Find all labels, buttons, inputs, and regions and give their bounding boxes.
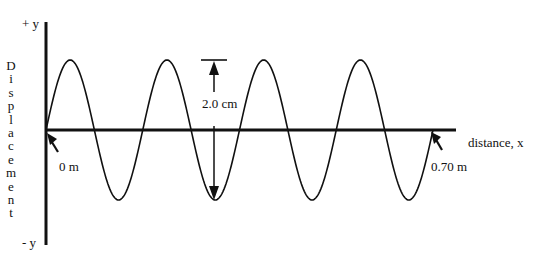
y-axis-title-letter: D	[5, 59, 17, 72]
y-axis-positive-label: + y	[22, 17, 39, 30]
arrowhead-up-icon	[209, 61, 219, 75]
y-axis-title-letter: s	[5, 86, 17, 99]
transverse-wave-diagram	[0, 0, 541, 261]
y-axis-title-letter: n	[5, 193, 17, 206]
y-axis-title-letter: t	[5, 206, 17, 219]
y-axis-title-letter: i	[5, 72, 17, 85]
y-axis-title-letter: a	[5, 126, 17, 139]
y-axis-title-displacement: Displacement	[5, 59, 17, 220]
start-pointer-arrowhead-icon	[47, 133, 57, 145]
end-distance-label: 0.70 m	[431, 160, 467, 173]
y-axis-title-letter: l	[5, 113, 17, 126]
x-axis-title: distance, x	[468, 136, 524, 149]
start-distance-label: 0 m	[59, 160, 79, 173]
end-pointer-arrowhead-icon	[431, 132, 441, 144]
y-axis-negative-label: - y	[22, 236, 36, 249]
y-axis-title-letter: e	[5, 153, 17, 166]
arrowhead-down-icon	[209, 186, 219, 200]
y-axis-title-letter: e	[5, 180, 17, 193]
y-axis-title-letter: p	[5, 99, 17, 112]
amplitude-label: 2.0 cm	[201, 97, 238, 110]
y-axis-title-letter: m	[5, 166, 17, 179]
y-axis-title-letter: c	[5, 139, 17, 152]
